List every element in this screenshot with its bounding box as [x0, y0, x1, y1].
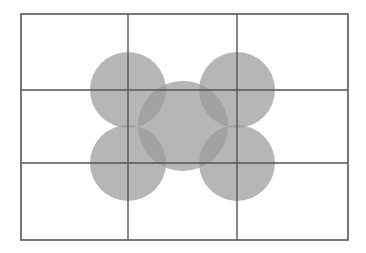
diagram-canvas	[0, 0, 366, 253]
figure-container: A rectangular frame subdivided by a thre…	[0, 0, 366, 253]
center-circle	[138, 81, 228, 171]
